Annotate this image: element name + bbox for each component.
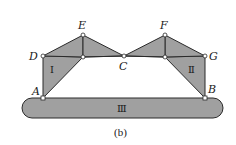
label-c: C — [119, 60, 128, 73]
triangle-d-e — [43, 35, 83, 57]
triangle-e-c — [83, 35, 124, 57]
joint-f — [163, 33, 167, 37]
joint-d — [41, 54, 45, 58]
joint-c — [122, 54, 126, 58]
label-body-ii: Ⅱ — [188, 64, 195, 75]
truss-diagram: D E C F G A B Ⅰ Ⅱ Ⅲ (b) — [0, 0, 236, 145]
label-body-i: Ⅰ — [50, 64, 54, 75]
joint-b — [203, 96, 207, 100]
joint-a — [41, 96, 45, 100]
label-e: E — [77, 19, 86, 32]
figure-caption: (b) — [114, 126, 127, 139]
body-i — [43, 56, 83, 98]
triangle-c-f — [124, 35, 165, 57]
label-body-iii: Ⅲ — [117, 103, 127, 114]
joint-g — [203, 54, 207, 58]
label-f: F — [159, 19, 168, 32]
label-a: A — [31, 85, 40, 98]
joint-right-inner — [163, 55, 167, 59]
label-d: D — [28, 50, 38, 63]
label-g: G — [209, 50, 218, 63]
label-b: B — [207, 83, 216, 96]
body-ii — [165, 56, 205, 98]
joint-left-inner — [81, 55, 85, 59]
triangle-f-g — [165, 35, 205, 57]
joint-e — [81, 33, 85, 37]
